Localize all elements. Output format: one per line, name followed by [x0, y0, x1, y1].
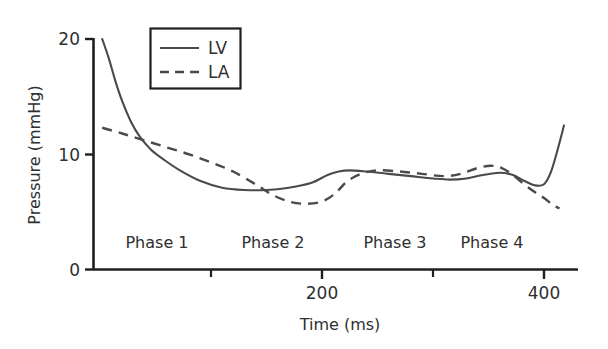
y-tick-label-10: 10: [58, 145, 80, 165]
phase-label-2: Phase 2: [241, 233, 304, 252]
legend: LV LA: [151, 29, 241, 89]
legend-label-la: LA: [208, 62, 230, 82]
x-tick-label-400: 400: [528, 283, 560, 303]
phase-label-3: Phase 3: [363, 233, 426, 252]
chart-figure: 20 10 0 200 400 Pressure (mmHg) Time (ms…: [0, 0, 608, 349]
y-axis-title: Pressure (mmHg): [25, 85, 44, 224]
y-tick-label-0: 0: [69, 260, 80, 280]
pressure-time-chart: 20 10 0 200 400 Pressure (mmHg) Time (ms…: [0, 0, 608, 349]
legend-label-lv: LV: [208, 38, 228, 58]
phase-label-1: Phase 1: [125, 233, 188, 252]
x-axis-title: Time (ms): [299, 315, 381, 334]
phase-label-4: Phase 4: [460, 233, 523, 252]
y-tick-label-20: 20: [58, 29, 80, 49]
chart-background: [0, 0, 608, 349]
x-tick-label-200: 200: [306, 283, 338, 303]
